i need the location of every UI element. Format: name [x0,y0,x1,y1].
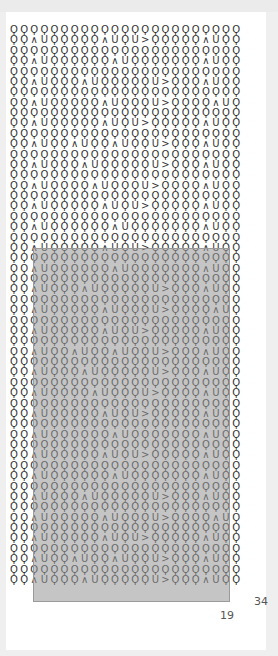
teardrop-icon[interactable]: Ϙ [19,471,29,481]
teardrop-icon[interactable]: Ϙ [160,222,170,232]
teardrop-icon[interactable]: Ϙ [191,554,201,564]
u-cup-icon[interactable]: U [120,554,130,564]
teardrop-icon[interactable]: Ϙ [90,554,100,564]
teardrop-icon[interactable]: Ϙ [130,471,140,481]
u-cup-icon[interactable]: U [39,56,49,66]
teardrop-icon[interactable]: Ϙ [19,575,29,585]
teardrop-icon[interactable]: Ϙ [90,305,100,315]
teardrop-icon[interactable]: Ϙ [130,575,140,585]
chevron-right-icon[interactable]: > [160,139,170,149]
teardrop-icon[interactable]: Ϙ [49,305,59,315]
teardrop-icon[interactable]: Ϙ [130,305,140,315]
caret-up-icon[interactable]: ∧ [201,388,211,398]
teardrop-icon[interactable]: Ϙ [49,56,59,66]
teardrop-icon[interactable]: Ϙ [181,575,191,585]
teardrop-icon[interactable]: Ϙ [100,56,110,66]
teardrop-icon[interactable]: Ϙ [80,222,90,232]
teardrop-icon[interactable]: Ϙ [90,56,100,66]
teardrop-icon[interactable]: Ϙ [140,575,150,585]
u-cup-icon[interactable]: U [150,575,160,585]
teardrop-icon[interactable]: Ϙ [100,575,110,585]
teardrop-icon[interactable]: Ϙ [201,305,211,315]
u-cup-icon[interactable]: U [140,388,150,398]
teardrop-icon[interactable]: Ϙ [160,388,170,398]
u-cup-icon[interactable]: U [211,471,221,481]
chevron-right-icon[interactable]: > [160,554,170,564]
teardrop-icon[interactable]: Ϙ [160,56,170,66]
teardrop-icon[interactable]: Ϙ [140,554,150,564]
teardrop-icon[interactable]: Ϙ [140,222,150,232]
u-cup-icon[interactable]: U [120,471,130,481]
teardrop-icon[interactable]: Ϙ [19,554,29,564]
teardrop-icon[interactable]: Ϙ [150,56,160,66]
teardrop-icon[interactable]: Ϙ [100,471,110,481]
teardrop-icon[interactable]: Ϙ [80,305,90,315]
teardrop-icon[interactable]: Ϙ [19,305,29,315]
u-cup-icon[interactable]: U [39,575,49,585]
teardrop-icon[interactable]: Ϙ [181,222,191,232]
teardrop-icon[interactable]: Ϙ [80,471,90,481]
caret-up-icon[interactable]: ∧ [80,575,90,585]
caret-up-icon[interactable]: ∧ [70,554,80,564]
teardrop-icon[interactable]: Ϙ [120,305,130,315]
teardrop-icon[interactable]: Ϙ [59,554,69,564]
teardrop-icon[interactable]: Ϙ [130,139,140,149]
teardrop-icon[interactable]: Ϙ [191,139,201,149]
teardrop-icon[interactable]: Ϙ [140,139,150,149]
teardrop-icon[interactable]: Ϙ [181,554,191,564]
teardrop-icon[interactable]: Ϙ [19,139,29,149]
teardrop-icon[interactable]: Ϙ [9,554,19,564]
teardrop-icon[interactable]: Ϙ [49,222,59,232]
teardrop-icon[interactable]: Ϙ [171,222,181,232]
teardrop-icon[interactable]: Ϙ [181,305,191,315]
u-cup-icon[interactable]: U [120,56,130,66]
teardrop-icon[interactable]: Ϙ [70,388,80,398]
u-cup-icon[interactable]: U [211,139,221,149]
caret-up-icon[interactable]: ∧ [201,554,211,564]
teardrop-icon[interactable]: Ϙ [191,56,201,66]
teardrop-icon[interactable]: Ϙ [49,554,59,564]
caret-up-icon[interactable]: ∧ [110,222,120,232]
teardrop-icon[interactable]: Ϙ [221,139,231,149]
teardrop-icon[interactable]: Ϙ [90,222,100,232]
teardrop-icon[interactable]: Ϙ [231,388,241,398]
teardrop-icon[interactable]: Ϙ [130,56,140,66]
teardrop-icon[interactable]: Ϙ [181,388,191,398]
u-cup-icon[interactable]: U [120,222,130,232]
u-cup-icon[interactable]: U [211,56,221,66]
teardrop-icon[interactable]: Ϙ [59,388,69,398]
teardrop-icon[interactable]: Ϙ [110,388,120,398]
teardrop-icon[interactable]: Ϙ [59,575,69,585]
u-cup-icon[interactable]: U [211,554,221,564]
caret-up-icon[interactable]: ∧ [211,305,221,315]
caret-up-icon[interactable]: ∧ [29,139,39,149]
teardrop-icon[interactable]: Ϙ [120,388,130,398]
teardrop-icon[interactable]: Ϙ [171,554,181,564]
caret-up-icon[interactable]: ∧ [100,305,110,315]
teardrop-icon[interactable]: Ϙ [59,471,69,481]
caret-up-icon[interactable]: ∧ [29,471,39,481]
teardrop-icon[interactable]: Ϙ [80,56,90,66]
teardrop-icon[interactable]: Ϙ [181,139,191,149]
teardrop-icon[interactable]: Ϙ [9,139,19,149]
teardrop-icon[interactable]: Ϙ [19,388,29,398]
teardrop-icon[interactable]: Ϙ [191,471,201,481]
teardrop-icon[interactable]: Ϙ [59,305,69,315]
caret-up-icon[interactable]: ∧ [29,56,39,66]
teardrop-icon[interactable]: Ϙ [70,305,80,315]
teardrop-icon[interactable]: Ϙ [221,222,231,232]
u-cup-icon[interactable]: U [150,139,160,149]
caret-up-icon[interactable]: ∧ [29,305,39,315]
u-cup-icon[interactable]: U [80,554,90,564]
teardrop-icon[interactable]: Ϙ [221,56,231,66]
teardrop-icon[interactable]: Ϙ [130,388,140,398]
teardrop-icon[interactable]: Ϙ [140,471,150,481]
teardrop-icon[interactable]: Ϙ [160,471,170,481]
teardrop-icon[interactable]: Ϙ [19,56,29,66]
teardrop-icon[interactable]: Ϙ [231,554,241,564]
symbol-grid[interactable]: ϘϘϘϘϘϘϘϘϘϘϘϘϘϘϘϘϘϘϘϘϘϘϘϘϘ∧UϘϘϘϘϘ∧UϘU>ϘϘϘ… [9,25,241,585]
teardrop-icon[interactable]: Ϙ [70,56,80,66]
teardrop-icon[interactable]: Ϙ [231,222,241,232]
teardrop-icon[interactable]: Ϙ [231,305,241,315]
teardrop-icon[interactable]: Ϙ [9,222,19,232]
